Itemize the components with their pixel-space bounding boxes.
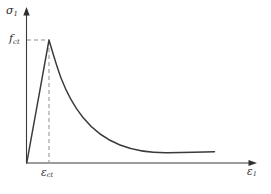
tension-softening-curve: [27, 40, 215, 163]
peak-strain-label: εct: [41, 167, 53, 179]
stress-strain-figure: σ1 fct εct ε1: [0, 0, 271, 194]
peak-stress-label: fct: [9, 33, 20, 45]
y-axis-label: σ1: [6, 5, 18, 17]
figure-canvas: [0, 0, 271, 194]
x-axis-label: ε1: [247, 166, 257, 178]
y-axis-arrowhead: [23, 7, 29, 16]
